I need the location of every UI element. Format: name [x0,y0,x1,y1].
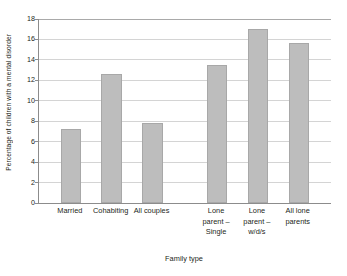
y-axis-tick-labels: 024681012141618 [16,19,38,203]
x-axis-tick-label: All couples [120,206,183,217]
y-axis-tick-label: 12 [27,77,35,84]
bar [142,123,162,203]
bar [207,65,227,203]
x-axis-title: Family type [38,254,330,263]
x-axis-tick-label: All loneparents [266,206,329,227]
x-axis-tick-labels: MarriedCohabitingAll couplesLoneparent –… [38,206,330,252]
bar-chart: Percentage of children with a mental dis… [0,0,347,276]
bar [61,129,81,203]
y-axis-tick-label: 16 [27,36,35,43]
bars-group [39,19,331,203]
y-axis-title: Percentage of children with a mental dis… [0,0,16,205]
bar [289,43,309,203]
plot-area [38,19,331,204]
y-axis-title-text: Percentage of children with a mental dis… [5,34,12,171]
y-axis-tick-label: 14 [27,56,35,63]
bar [101,74,121,203]
y-axis-tick-label: 18 [27,15,35,22]
bar [248,29,268,203]
y-axis-tick-label: 10 [27,97,35,104]
